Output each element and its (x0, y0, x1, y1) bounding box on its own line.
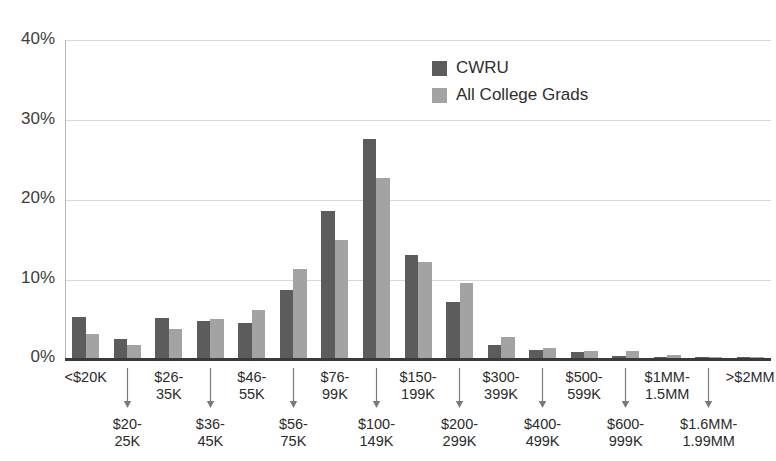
bars-layer (65, 40, 771, 358)
bar-all-college-grads (543, 348, 557, 358)
bar-all-college-grads (210, 319, 224, 358)
y-axis-tick-label: 10% (0, 268, 55, 288)
bar-all-college-grads (460, 283, 474, 358)
legend-swatch-icon (432, 61, 447, 76)
bar-cwru (72, 317, 86, 358)
y-axis-tick-label: 40% (0, 29, 55, 49)
bar-cwru (155, 318, 169, 358)
legend-item-cwru: CWRU (432, 58, 588, 78)
y-axis-line (65, 40, 66, 359)
x-axis-labels: <$20K$20-25K$26-35K$36-45K$46-55K$56-75K… (0, 361, 776, 461)
legend-label-cwru: CWRU (456, 58, 509, 78)
legend-swatch-icon (432, 88, 447, 103)
legend-item-all-college-grads: All College Grads (432, 85, 588, 105)
bar-cwru (321, 211, 335, 358)
plot-area (65, 40, 771, 358)
x-axis-tick-label: >$2MM (695, 369, 776, 386)
bar-cwru (488, 345, 502, 359)
bar-all-college-grads (418, 262, 432, 358)
y-axis-tick-label: 30% (0, 109, 55, 129)
chart-legend: CWRU All College Grads (432, 58, 588, 105)
bar-all-college-grads (252, 310, 266, 358)
bar-all-college-grads (293, 269, 307, 358)
bar-cwru (280, 290, 294, 358)
bar-cwru (114, 339, 128, 358)
bar-cwru (238, 323, 252, 358)
bar-cwru (405, 255, 419, 358)
bar-all-college-grads (626, 351, 640, 358)
bar-cwru (197, 321, 211, 358)
legend-label-all-college-grads: All College Grads (456, 85, 588, 105)
bar-all-college-grads (584, 351, 598, 358)
y-axis-tick-label: 20% (0, 188, 55, 208)
bar-cwru (446, 302, 460, 358)
bar-all-college-grads (376, 178, 390, 358)
bar-all-college-grads (169, 329, 183, 358)
bar-cwru (363, 139, 377, 358)
x-axis-tick-label: $1.6MM-1.99MM (654, 416, 764, 450)
bar-chart: 0%10%20%30%40% CWRU All College Grads <$… (0, 0, 776, 461)
bar-all-college-grads (501, 337, 515, 358)
bar-all-college-grads (86, 334, 100, 358)
bar-cwru (529, 350, 543, 358)
bar-all-college-grads (335, 240, 349, 358)
bar-all-college-grads (127, 345, 141, 359)
